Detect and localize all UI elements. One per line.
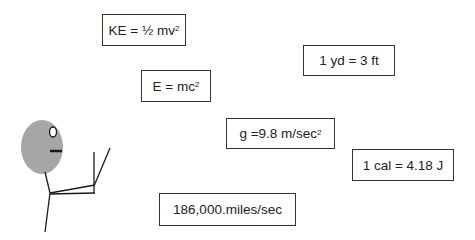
- formula-text: g =9.8 m/sec: [239, 126, 317, 141]
- figure-leg: [45, 193, 50, 232]
- formula-gravity: g =9.8 m/sec2: [226, 118, 335, 149]
- formula-mass-energy: E = mc2: [141, 70, 211, 102]
- formula-speed-of-light: 186,000.miles/sec: [159, 193, 296, 226]
- formula-yard-feet: 1 yd = 3 ft: [303, 45, 395, 76]
- formula-text: KE = ½ mv: [109, 23, 175, 38]
- formula-kinetic-energy: KE = ½ mv2: [102, 14, 186, 46]
- figure-head: [21, 120, 63, 174]
- figure-upper-arm-bottom: [50, 193, 95, 194]
- figure-upper-arm-top: [50, 185, 95, 193]
- formula-text: E = mc: [153, 79, 195, 94]
- figure-forearm-diagonal: [94, 148, 110, 186]
- figure-eye: [50, 127, 57, 137]
- figure-neck: [45, 172, 50, 193]
- formula-text: 186,000.miles/sec: [173, 202, 282, 217]
- formula-text: 1 yd = 3 ft: [319, 53, 379, 68]
- formula-calorie-joule: 1 cal = 4.18 J: [352, 149, 454, 181]
- formula-text: 1 cal = 4.18 J: [363, 158, 444, 173]
